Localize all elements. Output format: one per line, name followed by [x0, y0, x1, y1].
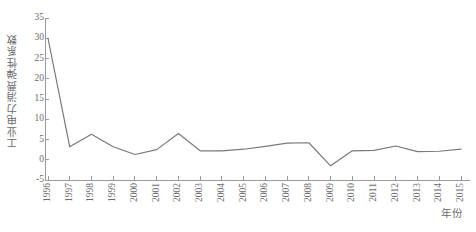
- y-tick-label: 25: [35, 54, 45, 64]
- y-tick-label: 5: [39, 135, 44, 145]
- x-axis-label-text: 年份: [441, 205, 462, 220]
- series-line: [48, 38, 461, 166]
- line-chart-plot: [0, 0, 476, 232]
- y-tick-label: 0: [39, 155, 44, 165]
- y-tick-label: 35: [35, 13, 45, 23]
- y-tick-label: -5: [36, 175, 44, 185]
- y-tick-label: 10: [35, 115, 45, 125]
- y-tick-label: 20: [35, 74, 45, 84]
- y-tick-label: 30: [35, 34, 45, 44]
- y-axis-tick-labels: -505101520253035: [22, 0, 46, 232]
- chart-data-series: [48, 38, 461, 166]
- chart-axes: [45, 18, 470, 180]
- chart-tick-marks: [45, 18, 461, 180]
- chart-figure: 工业电力消费弹性系数 -505101520253035 199619971998…: [0, 0, 476, 232]
- y-axis-label-text: 工业电力消费弹性系数: [4, 33, 19, 148]
- y-tick-label: 15: [35, 94, 45, 104]
- y-axis-label: 工业电力消费弹性系数: [0, 0, 22, 180]
